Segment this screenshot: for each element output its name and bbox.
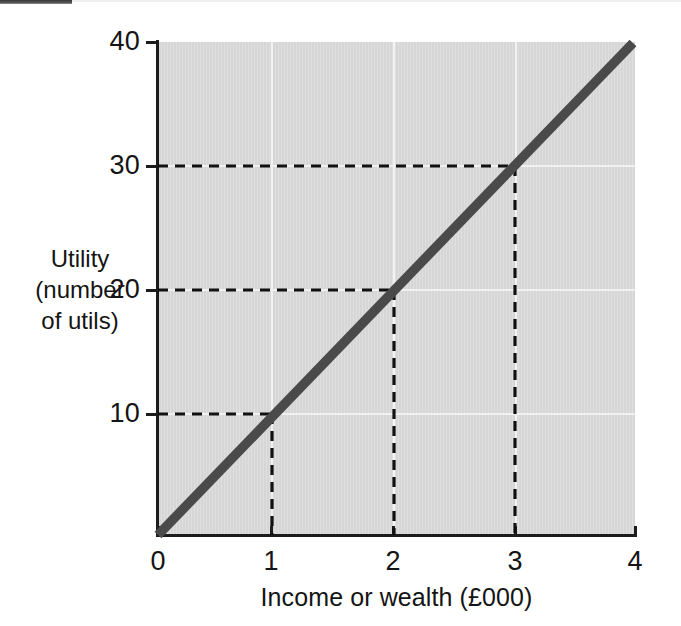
y-axis-title-line-3: of utils) — [18, 305, 142, 336]
y-tick-label-40: 40 — [80, 26, 140, 57]
y-tick-30 — [146, 165, 158, 168]
plot-area — [158, 42, 635, 535]
y-tick-label-30-wrap: 30 — [78, 150, 140, 184]
y-axis-title-line-2: (number — [18, 274, 142, 305]
x-tick-label-1-wrap: 1 — [241, 546, 301, 577]
x-tick-3 — [514, 526, 517, 537]
gridline-horizontal-20 — [158, 289, 635, 291]
x-axis-line — [156, 534, 637, 537]
x-tick-label-0-wrap: 0 — [128, 546, 188, 577]
x-tick-label-4-wrap: 4 — [605, 546, 665, 577]
x-tick-label-3: 3 — [507, 546, 522, 576]
y-tick-label-40-wrap: 40 — [78, 26, 140, 60]
y-tick-label-10-wrap: 10 — [78, 398, 140, 432]
x-axis-title: Income or wealth (£000) — [158, 583, 635, 612]
x-tick-1 — [270, 526, 273, 537]
x-tick-label-2-wrap: 2 — [363, 546, 423, 577]
y-tick-label-30: 30 — [80, 150, 140, 181]
x-tick-label-3-wrap: 3 — [485, 546, 545, 577]
y-tick-10 — [146, 413, 158, 416]
x-tick-label-1: 1 — [263, 546, 278, 576]
gridline-horizontal-10 — [158, 413, 635, 415]
y-tick-20 — [146, 289, 158, 292]
x-tick-label-2: 2 — [385, 546, 400, 576]
utility-chart-figure: 40 30 20 10 0 1 2 3 4 Utility (number of… — [0, 0, 681, 626]
x-tick-2 — [392, 526, 395, 537]
y-tick-label-10: 10 — [80, 398, 140, 429]
x-tick-0 — [157, 526, 160, 537]
gridline-horizontal-30 — [158, 165, 635, 167]
x-tick-label-0: 0 — [150, 546, 165, 576]
y-tick-40 — [146, 41, 158, 44]
x-tick-label-4: 4 — [627, 546, 642, 576]
x-tick-4 — [634, 526, 637, 537]
y-axis-title-line-1: Utility — [18, 243, 142, 274]
y-axis-title: Utility (number of utils) — [18, 243, 142, 336]
